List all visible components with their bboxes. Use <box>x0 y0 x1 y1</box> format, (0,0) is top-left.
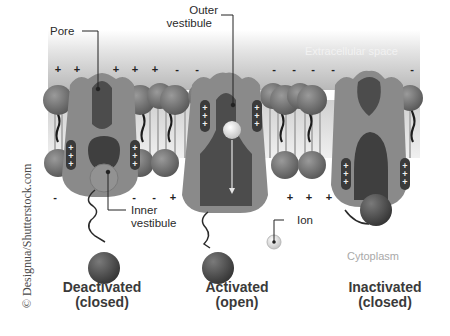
charge-bottom: + <box>325 192 333 202</box>
charge-top: + <box>151 64 159 74</box>
charge-top: + <box>131 64 139 74</box>
charge-top: - <box>193 64 201 74</box>
charge-top: - <box>173 64 181 74</box>
charge-bottom: - <box>51 192 59 202</box>
state-name: Activated <box>172 280 302 295</box>
cytoplasm-label: Cytoplasm <box>347 250 399 262</box>
svg-text:+: + <box>68 159 73 169</box>
charge-bottom: + <box>286 192 294 202</box>
channel-deactivated <box>62 73 140 284</box>
charge-bottom: + <box>169 192 177 202</box>
svg-text:+: + <box>202 119 207 129</box>
charge-top: + <box>73 64 81 74</box>
charge-top: - <box>329 64 337 74</box>
channel-inactivated <box>331 71 410 226</box>
state-name: Deactivated <box>37 280 167 295</box>
ion-label: Ion <box>297 214 313 226</box>
inner-vestibule-label-1: Inner <box>131 204 157 216</box>
extracellular-space-label: Extracellular space <box>305 45 398 57</box>
charge-bottom: + <box>305 192 313 202</box>
pore-label: Pore <box>50 25 74 37</box>
svg-text:+: + <box>343 177 348 187</box>
state-name: Inactivated <box>320 280 450 295</box>
svg-text:+: + <box>402 177 407 187</box>
state-deactivated: Deactivated (closed) <box>37 280 167 310</box>
ion-channel-diagram: +++ +++ +++ +++ +++ +++ + + + + + - - - … <box>0 0 450 336</box>
state-status: (closed) <box>37 295 167 310</box>
svg-text:+: + <box>132 159 137 169</box>
outer-vestibule-label-2: vestibule <box>160 17 212 29</box>
charge-bottom: - <box>150 192 158 202</box>
state-activated: Activated (open) <box>172 280 302 310</box>
svg-text:+: + <box>254 119 259 129</box>
charge-top: - <box>309 64 317 74</box>
charge-top: + <box>112 64 120 74</box>
charge-top: + <box>54 64 62 74</box>
charge-top: - <box>408 64 416 74</box>
copyright-credit: © Designua/Shutterstock.com <box>20 164 35 308</box>
state-inactivated: Inactivated (closed) <box>320 280 450 310</box>
charge-top: - <box>290 64 298 74</box>
state-status: (open) <box>172 295 302 310</box>
outer-vestibule-label-1: Outer <box>180 4 218 16</box>
charge-bottom: - <box>130 192 138 202</box>
charge-top: - <box>270 64 278 74</box>
inner-vestibule-label-2: vestibule <box>131 217 176 229</box>
state-status: (closed) <box>320 295 450 310</box>
